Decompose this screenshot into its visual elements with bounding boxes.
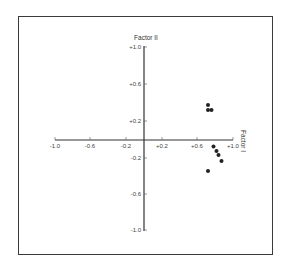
data-points <box>206 103 224 173</box>
data-point <box>212 145 216 149</box>
y-tick-label: +0.2 <box>129 118 142 124</box>
y-tick-label: +0.6 <box>129 81 142 87</box>
factor-plot: -1.0 -0.6 -0.2 +0.2 +0.6 +1.0 +1.0 +0.6 … <box>0 0 288 267</box>
x-tick-label: +0.6 <box>191 143 204 149</box>
data-point <box>206 169 210 173</box>
x-ticks: -1.0 -0.6 -0.2 +0.2 +0.6 +1.0 <box>50 137 240 149</box>
y-tick-label: -0.2 <box>131 155 142 161</box>
data-point <box>217 153 221 157</box>
x-tick-label: -0.6 <box>85 143 96 149</box>
y-tick-label: -0.6 <box>131 191 142 197</box>
x-tick-label: -1.0 <box>50 143 61 149</box>
y-tick-label: -1.0 <box>131 227 142 233</box>
data-point <box>206 103 210 107</box>
x-axis-label: Factor I <box>240 130 247 152</box>
data-point <box>220 159 224 163</box>
y-tick-label: +1.0 <box>129 44 142 50</box>
data-point <box>206 108 210 112</box>
x-tick-label: +1.0 <box>227 143 240 149</box>
y-axis-label: Factor II <box>134 34 158 41</box>
x-tick-label: -0.2 <box>121 143 132 149</box>
data-point <box>215 149 219 153</box>
x-tick-label: +0.2 <box>156 143 169 149</box>
data-point <box>210 108 214 112</box>
